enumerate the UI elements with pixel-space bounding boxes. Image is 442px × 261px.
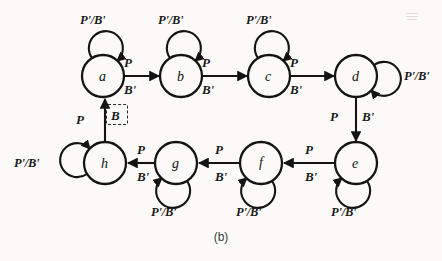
- transition-label-e-f-input: P: [305, 143, 313, 156]
- self-loop-label-d: P'/B': [404, 70, 429, 83]
- transition-label-b-c-output: B': [202, 83, 214, 96]
- transition-label-a-b-output: B': [124, 83, 136, 96]
- figure-canvas: a b c d e f g h P'/B' P'/B' P'/B' P'/B' …: [0, 0, 442, 261]
- transition-label-d-e-input: P: [330, 110, 338, 123]
- self-loop-label-c: P'/B': [246, 14, 271, 27]
- self-loop-label-e: P'/B': [331, 206, 356, 219]
- state-label-g: g: [172, 157, 179, 171]
- state-diagram-graphics: [0, 0, 442, 261]
- state-label-b: b: [177, 70, 184, 84]
- state-label-e: e: [352, 157, 358, 171]
- transition-label-f-g-input: P: [215, 143, 223, 156]
- transition-label-f-g-output: B': [215, 170, 227, 183]
- self-loop-label-h: P'/B': [14, 157, 39, 170]
- transition-label-a-b-input: P: [124, 56, 132, 69]
- transition-label-h-a-input: P: [76, 113, 84, 126]
- self-loop-label-a: P'/B': [80, 14, 105, 27]
- scan-artifact: [404, 11, 422, 25]
- transition-label-g-h-input: P: [137, 143, 145, 156]
- self-loop-label-g: P'/B': [151, 206, 176, 219]
- transition-label-e-f-output: B': [305, 170, 317, 183]
- state-label-h: h: [101, 157, 108, 171]
- transition-label-c-d-input: P: [290, 56, 298, 69]
- transition-label-g-h-output: B': [137, 170, 149, 183]
- state-label-c: c: [265, 70, 271, 84]
- transition-label-h-a-output-highlighted: B: [111, 109, 119, 122]
- transition-label-c-d-output: B': [290, 83, 302, 96]
- self-loop-label-f: P'/B': [236, 206, 261, 219]
- state-label-a: a: [99, 70, 106, 84]
- transition-label-b-c-input: P: [202, 56, 210, 69]
- transition-label-d-e-output: B': [362, 110, 374, 123]
- state-label-d: d: [352, 70, 359, 84]
- self-loop-label-b: P'/B': [158, 14, 183, 27]
- figure-caption: (b): [0, 230, 442, 244]
- state-label-f: f: [259, 156, 263, 170]
